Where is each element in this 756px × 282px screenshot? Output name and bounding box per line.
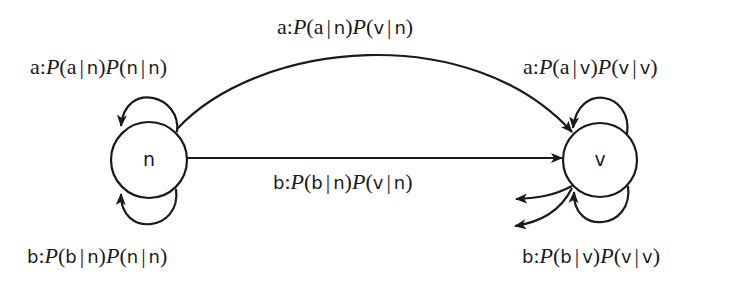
state-node-v-label: v	[594, 148, 605, 170]
label-n-to-v-a: a:P(a|n)P(v|n)	[277, 14, 413, 41]
state-node-n: n	[111, 122, 187, 198]
edge-n-to-v-a	[177, 55, 572, 132]
label-n-to-v-b: b:P(b|n)P(v|n)	[273, 169, 413, 196]
edge-v-outgoing-1	[516, 186, 572, 199]
hmm-state-diagram: n v	[0, 0, 756, 282]
edge-v-outgoing-2	[515, 188, 572, 226]
label-n-to-n-a: a:P(a|n)P(n|n)	[30, 54, 167, 81]
label-n-to-n-b: b:P(b|n)P(n|n)	[27, 243, 167, 270]
label-v-to-v-b: b:P(b|v)P(v|v)	[522, 243, 660, 270]
state-node-n-label: n	[143, 148, 155, 170]
label-v-to-v-a: a:P(a|v)P(v|v)	[523, 54, 658, 81]
state-node-v: v	[563, 123, 637, 197]
